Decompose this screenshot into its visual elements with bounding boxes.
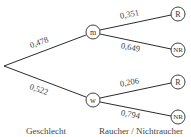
node-m-r-label: R — [175, 10, 181, 19]
node-w-r-label: R — [175, 78, 181, 87]
node-w-r: R — [171, 75, 185, 89]
node-w-label: w — [90, 96, 96, 105]
probability-tree-diagram: 0,478 0,522 0,351 0,649 0,206 0,794 m w … — [0, 0, 191, 137]
node-m-nr: NR — [171, 43, 185, 57]
caption-level2: Raucher / Nichtraucher — [99, 126, 183, 136]
prob-m: 0,478 — [28, 34, 49, 50]
node-w-nr-label: NR — [173, 113, 183, 121]
node-w: w — [86, 93, 100, 107]
node-w-nr: NR — [171, 110, 185, 124]
node-m-label: m — [90, 28, 97, 37]
prob-m-r: 0,351 — [119, 7, 140, 20]
prob-w: 0,522 — [28, 81, 49, 97]
prob-w-r: 0,206 — [119, 75, 140, 88]
node-m-nr-label: NR — [173, 46, 183, 54]
node-m: m — [86, 25, 100, 39]
node-m-r: R — [171, 7, 185, 21]
caption-level1: Geschlecht — [26, 126, 66, 136]
